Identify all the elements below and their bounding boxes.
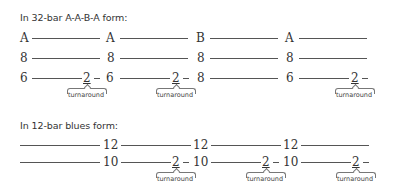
blues-row1-12: 12 <box>283 139 298 151</box>
aaba-row3-2: 2 <box>83 72 91 84</box>
aaba-row2-8: 8 <box>20 52 28 64</box>
blues-row1-12: 12 <box>103 139 118 151</box>
aaba-row3-2: 2 <box>351 72 359 84</box>
bar-line <box>210 38 278 39</box>
aaba-row2-8: 8 <box>286 52 294 64</box>
blues-row2-2: 2 <box>352 156 360 168</box>
aaba-row2-8: 8 <box>107 52 115 64</box>
bar-line <box>120 38 188 39</box>
bar-line <box>210 78 278 79</box>
bar-line <box>299 58 367 59</box>
bar-line <box>299 78 349 79</box>
aaba-row3-6: 6 <box>106 72 114 84</box>
bar-line <box>120 78 170 79</box>
dash <box>273 162 279 163</box>
bar-line <box>32 38 100 39</box>
bar-line <box>20 145 100 146</box>
bar-line <box>120 58 188 59</box>
blues-row2-10: 10 <box>283 156 298 168</box>
aaba-row2-8: 8 <box>197 52 205 64</box>
turnaround-label: turnaround <box>243 175 287 183</box>
bar-line <box>20 162 100 163</box>
bar-line <box>210 58 278 59</box>
bar-line <box>301 145 369 146</box>
turnaround-label: turnaround <box>153 91 197 99</box>
aaba-row3-2: 2 <box>172 72 180 84</box>
dash <box>362 78 368 79</box>
blues-row2-2: 2 <box>262 156 270 168</box>
turnaround-label: turnaround <box>64 91 108 99</box>
dash <box>363 162 369 163</box>
blues-heading: In 12-bar blues form: <box>20 120 118 131</box>
bar-line <box>299 38 367 39</box>
aaba-row3-6: 6 <box>286 72 294 84</box>
bar-line <box>121 145 191 146</box>
dash <box>94 78 100 79</box>
dash <box>183 78 189 79</box>
blues-row2-10: 10 <box>193 156 208 168</box>
bar-line <box>211 162 261 163</box>
bar-line <box>211 145 281 146</box>
bar-line <box>301 162 351 163</box>
blues-row1-12: 12 <box>193 139 208 151</box>
turnaround-label: turnaround <box>333 175 377 183</box>
aaba-row1-a1: A <box>20 32 29 44</box>
bar-line <box>32 78 82 79</box>
aaba-row1-b: B <box>196 32 205 44</box>
aaba-row3-6: 6 <box>20 72 28 84</box>
blues-row2-2: 2 <box>172 156 180 168</box>
bar-line <box>121 162 171 163</box>
blues-row2-10: 10 <box>103 156 118 168</box>
turnaround-label: turnaround <box>332 91 376 99</box>
dash <box>183 162 189 163</box>
aaba-row3-8: 8 <box>197 72 205 84</box>
aaba-row1-a2: A <box>106 32 115 44</box>
aaba-heading: In 32-bar A-A-B-A form: <box>20 12 127 23</box>
turnaround-label: turnaround <box>153 175 197 183</box>
bar-line <box>32 58 100 59</box>
aaba-row1-a3: A <box>285 32 294 44</box>
